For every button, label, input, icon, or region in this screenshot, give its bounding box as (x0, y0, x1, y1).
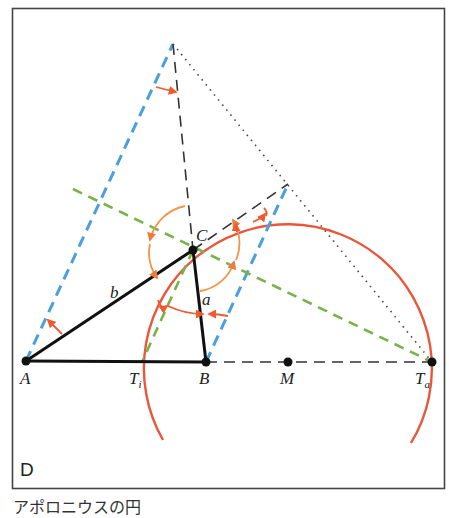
label-b: B (199, 369, 210, 388)
label-side-b: b (110, 283, 119, 302)
label-c: C (196, 226, 208, 245)
label-ta: Ta (415, 369, 430, 390)
figure-frame (13, 9, 445, 489)
blue-parallel-lines (26, 44, 288, 362)
point-c (189, 246, 198, 255)
angle-arrows (48, 87, 267, 334)
label-m: M (279, 369, 295, 388)
panel-label: D (20, 459, 34, 480)
label-ti: Ti (129, 369, 142, 390)
point-ta (428, 358, 437, 367)
green-bisector-lines (73, 189, 432, 362)
figure-caption: アポロニウスの円 (13, 494, 141, 518)
label-side-a: a (202, 290, 211, 309)
point-m (284, 358, 293, 367)
point-a (22, 357, 31, 366)
apollonius-circle (144, 224, 432, 443)
point-b (202, 358, 211, 367)
label-a: A (19, 369, 31, 388)
